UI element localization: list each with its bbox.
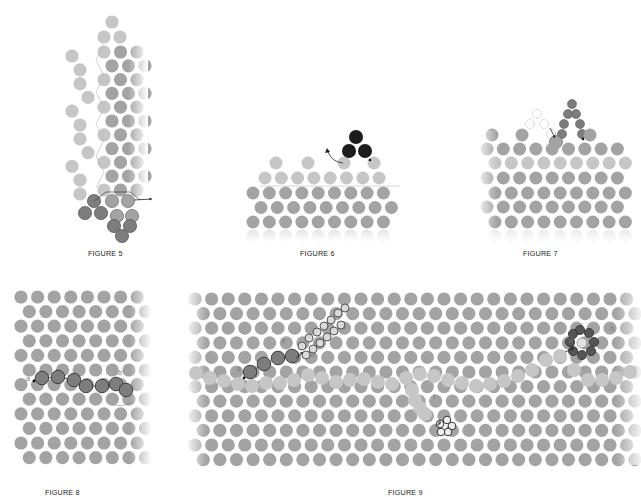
lattice-atom (496, 336, 509, 349)
lattice-atom (81, 349, 94, 362)
lattice-atom (280, 453, 293, 466)
lattice-atom (379, 395, 392, 408)
lattice-atom (520, 351, 533, 364)
lattice-atom (23, 334, 36, 347)
lattice-atom (404, 292, 417, 305)
boundary-atom (189, 366, 203, 380)
lattice-atom (587, 438, 600, 451)
lattice-atom (48, 436, 61, 449)
lattice-atom (73, 334, 86, 347)
lattice-atom (587, 409, 600, 422)
lattice-atom (570, 438, 583, 451)
lattice-atom (81, 320, 94, 333)
lattice-atom (271, 292, 284, 305)
boundary-atom (623, 365, 637, 379)
lattice-atom (371, 322, 384, 335)
column-atom (105, 59, 118, 72)
lattice-atom (396, 395, 409, 408)
lattice-atom (346, 395, 359, 408)
lattice-atom (89, 422, 102, 435)
lattice-atom (14, 349, 27, 362)
open-ring-atom (323, 333, 331, 341)
label-g: g (436, 419, 440, 426)
lattice-atom (354, 438, 367, 451)
layer-atom (320, 201, 333, 214)
lattice-atom (263, 424, 276, 437)
lattice-atom (263, 307, 276, 320)
lattice-atom (388, 438, 401, 451)
lattice-atom (520, 409, 533, 422)
boundary-atom (455, 376, 469, 390)
lattice-atom (271, 409, 284, 422)
lattice-atom (579, 424, 592, 437)
layer-atom (546, 201, 559, 214)
bonded-atom (105, 194, 118, 207)
lattice-atom (48, 407, 61, 420)
lattice-atom (496, 395, 509, 408)
lattice-atom (520, 438, 533, 451)
layer-atom (336, 201, 349, 214)
lattice-atom (421, 322, 434, 335)
label-b: b (118, 369, 122, 376)
vacant-site (533, 110, 542, 119)
lattice-atom (603, 292, 616, 305)
lattice-atom (14, 436, 27, 449)
lattice-atom (454, 351, 467, 364)
lattice-atom (23, 422, 36, 435)
lattice-atom (64, 320, 77, 333)
lattice-atom (213, 424, 226, 437)
boundary-atom (567, 363, 581, 377)
lattice-atom (280, 395, 293, 408)
lattice-atom (89, 334, 102, 347)
lattice-atom (48, 290, 61, 303)
label-a: a (237, 365, 241, 372)
top-layer-atom (356, 172, 369, 185)
label-d: d (311, 351, 315, 358)
lattice-atom (114, 290, 127, 303)
dark-chain-atom (576, 120, 585, 129)
layer-atom (529, 201, 542, 214)
boundary-atom (287, 373, 301, 387)
layer-atom (328, 216, 341, 229)
lattice-atom (247, 453, 260, 466)
column-atom (97, 101, 110, 114)
column-atom (105, 170, 118, 183)
lattice-atom (554, 322, 567, 335)
layer-atom (578, 201, 591, 214)
lattice-atom (280, 424, 293, 437)
layer-atom (263, 187, 276, 200)
lattice-atom (579, 453, 592, 466)
layer-atom (619, 157, 632, 170)
lattice-atom (363, 424, 376, 437)
small-ring-atom (437, 428, 445, 436)
lattice-atom (529, 307, 542, 320)
lattice-atom (595, 424, 608, 437)
boundary-atom (595, 373, 609, 387)
lattice-atom (31, 290, 44, 303)
fade-overlay (130, 290, 152, 465)
lattice-atom (56, 334, 69, 347)
lattice-atom (529, 424, 542, 437)
lattice-atom (504, 438, 517, 451)
lattice-atom (346, 453, 359, 466)
fade-overlay (480, 228, 641, 242)
lattice-atom (64, 349, 77, 362)
fade-overlay (240, 228, 420, 242)
lattice-atom (330, 395, 343, 408)
lattice-atom (462, 453, 475, 466)
lattice-atom (429, 336, 442, 349)
lattice-atom (238, 409, 251, 422)
lattice-atom (288, 322, 301, 335)
lattice-atom (354, 292, 367, 305)
lattice-atom (255, 292, 268, 305)
layer-atom (377, 187, 390, 200)
lattice-atom (338, 292, 351, 305)
lattice-atom (23, 393, 36, 406)
lattice-atom (512, 395, 525, 408)
lattice-atom (388, 351, 401, 364)
layer-atom (377, 216, 390, 229)
layer-atom (529, 172, 542, 185)
column-atom (114, 156, 127, 169)
layer-atom (312, 216, 325, 229)
boundary-atom (525, 363, 539, 377)
